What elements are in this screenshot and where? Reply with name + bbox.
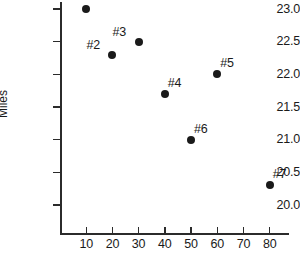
data-point-label: #2 [86, 39, 100, 52]
y-tick-mark [53, 106, 60, 107]
y-tick-label: 20.0 [254, 199, 300, 212]
y-tick-label: 22.0 [254, 68, 300, 81]
data-point-label: #7 [273, 168, 287, 181]
x-tick-mark [243, 227, 244, 234]
scatter-chart: Miles 20.020.521.021.522.022.523.0 10203… [0, 0, 300, 256]
data-point [82, 5, 90, 13]
data-point-label: #3 [113, 26, 127, 39]
y-tick-label: 21.0 [254, 133, 300, 146]
y-tick-mark [53, 139, 60, 140]
data-point-label: #5 [220, 57, 234, 70]
x-tick-mark [138, 227, 139, 234]
x-tick-label: 80 [250, 238, 290, 251]
y-axis-line [60, 2, 62, 234]
y-tick-mark [53, 8, 60, 9]
y-tick-mark [53, 172, 60, 173]
y-tick-label: 21.5 [254, 101, 300, 114]
x-tick-mark [164, 227, 165, 234]
data-point-label: #1 [78, 0, 92, 3]
y-tick-label: 23.0 [254, 3, 300, 16]
y-tick-mark [53, 204, 60, 205]
y-tick-mark [53, 74, 60, 75]
y-tick-label: 22.5 [254, 35, 300, 48]
data-point [187, 136, 195, 144]
y-axis-title: Miles [0, 90, 10, 118]
data-point [135, 38, 143, 46]
x-tick-mark [217, 227, 218, 234]
data-point-label: #4 [168, 77, 182, 90]
x-tick-mark [269, 227, 270, 234]
data-point [266, 181, 274, 189]
x-axis-line [60, 233, 289, 235]
x-tick-mark [112, 227, 113, 234]
y-tick-mark [53, 41, 60, 42]
data-point-label: #6 [194, 123, 208, 136]
x-tick-mark [190, 227, 191, 234]
data-point [213, 70, 221, 78]
data-point [108, 51, 116, 59]
x-tick-mark [86, 227, 87, 234]
data-point [161, 90, 169, 98]
